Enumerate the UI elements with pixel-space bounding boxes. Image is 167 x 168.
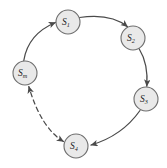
edge-s3-to-s4 [91,111,140,146]
node-s1-sub: 1 [67,21,70,28]
node-s3-sub: 3 [144,98,148,105]
node-s2-sub: 2 [132,37,135,44]
edge-s4-to-sm [29,87,64,142]
node-s1[interactable]: S1 [56,10,80,34]
node-s4-sub: 4 [75,145,78,152]
node-s3[interactable]: S3 [134,87,158,111]
node-sm[interactable]: Sm [13,61,37,85]
node-s2[interactable]: S2 [121,26,145,50]
edge-s1-to-s2 [80,16,128,26]
node-layer: S1 S2 S3 S4 [13,10,158,158]
cycle-diagram: S1 S2 S3 S4 [0,0,167,168]
edge-s2-to-s3 [139,49,147,87]
diagram-svg: S1 S2 S3 S4 [0,0,167,168]
node-s4[interactable]: S4 [64,134,88,158]
node-sm-sub: m [23,72,28,79]
edge-sm-to-s1 [24,23,56,61]
